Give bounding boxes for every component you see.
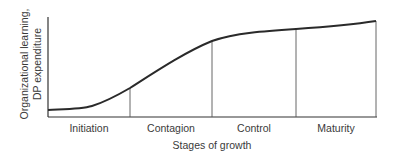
stage-label-control: Control [237, 122, 271, 134]
y-axis-label: Organizational learning, DP expenditure [18, 9, 43, 120]
y-axis-label-line2: DP expenditure [31, 28, 43, 100]
y-axis-label-line1: Organizational learning, [18, 9, 30, 120]
stage-label-initiation: Initiation [69, 122, 108, 134]
stage-label-contagion: Contagion [147, 122, 195, 134]
stages-of-growth-chart: Organizational learning, DP expenditure … [0, 0, 395, 155]
x-axis-title: Stages of growth [173, 139, 252, 151]
stage-label-maturity: Maturity [317, 122, 355, 134]
